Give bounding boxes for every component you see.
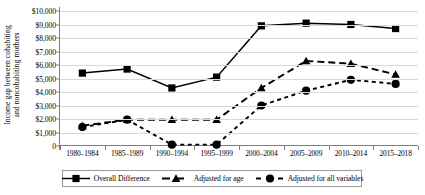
y-tick-label: $1,000: [35, 128, 56, 137]
series-adjusted-for-all-variables: [78, 76, 399, 149]
circle-marker-icon: [168, 141, 176, 149]
y-tick-mark: [56, 38, 60, 39]
y-tick-label: $6,000: [35, 61, 56, 70]
y-tick-label: $8,000: [35, 34, 56, 43]
x-tick-label: 1985–1989: [111, 149, 143, 158]
gridline: [60, 38, 418, 39]
y-tick-label: $2,000: [35, 115, 56, 124]
gridline: [60, 65, 418, 66]
legend-item[interactable]: Adjusted for all variables: [255, 173, 364, 184]
x-tick-label: 1990–1994: [156, 149, 188, 158]
gridline: [60, 133, 418, 134]
gridline: [60, 92, 418, 93]
x-tick-label: 2005–2009: [290, 149, 322, 158]
x-tick-label: 2000–2004: [245, 149, 277, 158]
circle-marker-icon: [347, 76, 355, 84]
circle-marker-icon: [213, 141, 221, 149]
y-tick-mark: [56, 65, 60, 66]
legend-item[interactable]: Overall Difference: [61, 173, 150, 184]
series-line: [82, 80, 395, 145]
x-tick-label: 1980–1984: [66, 149, 98, 158]
gridline: [60, 106, 418, 107]
plot-area: [60, 11, 418, 146]
x-tick-mark: [418, 146, 419, 150]
circle-marker-icon: [78, 123, 86, 131]
x-axis-tick-labels: 1980–19841985–19891990–19941995–19992000…: [60, 149, 418, 161]
y-tick-label: $7,000: [35, 47, 56, 56]
x-tick-label: 2015–2018: [379, 149, 411, 158]
y-tick-label: $10,000: [32, 7, 56, 16]
square-marker-icon: [213, 74, 220, 81]
y-tick-mark: [56, 92, 60, 93]
square-marker-icon: [303, 20, 310, 27]
legend-marker-square-marker-icon: [61, 173, 91, 184]
y-tick-mark: [56, 132, 60, 133]
square-marker-icon: [258, 22, 265, 29]
y-tick-mark: [56, 11, 60, 12]
gridline: [60, 25, 418, 26]
x-tick-label: 1995–1999: [200, 149, 232, 158]
y-axis-title-line-1: Income gap between cohabiting: [3, 25, 12, 125]
y-tick-mark: [56, 78, 60, 79]
y-tick-label: $9,000: [35, 20, 56, 29]
square-marker-icon: [392, 25, 399, 32]
x-tick-label: 2010–2014: [335, 149, 367, 158]
square-marker-icon: [72, 175, 79, 182]
legend-marker-triangle-marker-icon: [161, 173, 191, 184]
y-axis-tick-labels: 0$1,000$2,000$3,000$4,000$5,000$6,000$7,…: [18, 0, 58, 150]
circle-marker-icon: [266, 174, 274, 182]
gridline: [60, 79, 418, 80]
legend-label: Adjusted for age: [194, 174, 244, 183]
y-tick-mark: [56, 119, 60, 120]
gridline: [60, 119, 418, 120]
legend-label: Adjusted for all variables: [288, 174, 364, 183]
circle-marker-icon: [392, 80, 400, 88]
y-tick-mark: [56, 105, 60, 106]
square-marker-icon: [124, 65, 131, 72]
chart-figure: Income gap between cohabiting and noncoh…: [0, 0, 425, 195]
legend-item[interactable]: Adjusted for age: [161, 173, 244, 184]
square-marker-icon: [79, 70, 86, 77]
y-tick-mark: [56, 51, 60, 52]
y-tick-label: $5,000: [35, 74, 56, 83]
gridline: [60, 52, 418, 53]
y-tick-label: $4,000: [35, 88, 56, 97]
legend-marker-circle-marker-icon: [255, 173, 285, 184]
triangle-marker-icon: [257, 84, 266, 92]
y-tick-mark: [56, 24, 60, 25]
chart-legend: Overall DifferenceAdjusted for ageAdjust…: [62, 170, 362, 187]
triangle-marker-icon: [391, 70, 400, 78]
circle-marker-icon: [302, 87, 310, 95]
square-marker-icon: [168, 84, 175, 91]
y-tick-label: $3,000: [35, 101, 56, 110]
legend-label: Overall Difference: [94, 174, 150, 183]
gridline: [60, 11, 418, 12]
